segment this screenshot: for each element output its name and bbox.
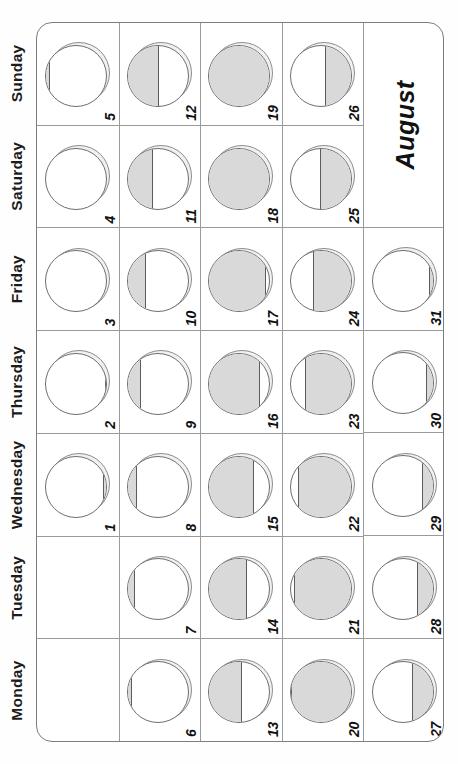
moon-phase-icon [208,41,274,107]
moon-phase-icon [372,246,438,312]
day-cell-15[interactable]: 15 [201,434,282,537]
moon-lit-area [294,558,352,620]
moon-phase-icon [127,144,193,210]
day-cell-11[interactable]: 11 [120,126,201,229]
moon-lit-area [291,661,352,723]
day-cell-29[interactable]: 29 [364,433,444,536]
day-cell-2[interactable]: 2 [37,331,119,434]
day-cell-8[interactable]: 8 [120,434,201,537]
day-number: 16 [266,414,280,429]
weekday-header-friday: Friday [0,228,36,331]
moon-lit-area [127,558,135,620]
day-cell-27[interactable]: 27 [364,639,444,741]
day-number: 12 [184,106,198,121]
day-cell-23[interactable]: 23 [283,331,364,434]
day-number: 24 [347,311,361,326]
day-cell-5[interactable]: 5 [37,23,119,126]
day-number: 2 [103,421,117,429]
day-cell-19[interactable]: 19 [201,23,282,126]
day-cell-26[interactable]: 26 [283,23,364,126]
moon-phase-icon [127,452,193,518]
day-cell-30[interactable]: 30 [364,331,444,434]
moon-phase-icon [127,41,193,107]
day-cell-12[interactable]: 12 [120,23,201,126]
day-number: 25 [347,208,361,223]
day-cell-16[interactable]: 16 [201,331,282,434]
day-cell-31[interactable]: 31 [364,228,444,331]
day-number: 19 [266,106,280,121]
day-cell-10[interactable]: 10 [120,228,201,331]
day-number: 21 [347,619,361,634]
moon-lit-area [208,250,265,312]
moon-phase-icon [127,349,193,415]
day-cell-14[interactable]: 14 [201,537,282,640]
moon-disc [127,45,189,107]
moon-disc [290,250,352,312]
moon-phase-icon [45,452,111,518]
moon-lit-area [45,45,50,107]
day-number: 31 [429,310,443,325]
month-title: August [390,80,419,169]
day-number: 13 [266,722,280,737]
moon-disc [127,250,189,312]
moon-phase-icon [290,144,356,210]
moon-phase-icon [290,452,356,518]
moon-lit-area [127,661,132,723]
day-number: 15 [266,516,280,531]
day-number: 27 [429,722,443,737]
day-number: 22 [347,516,361,531]
moon-lit-area [127,45,159,107]
day-cell-18[interactable]: 18 [201,126,282,229]
moon-phase-icon [208,144,274,210]
day-cell-17[interactable]: 17 [201,228,282,331]
moon-lit-area [417,558,434,620]
day-cell-28[interactable]: 28 [364,536,444,639]
moon-disc [290,45,352,107]
moon-phase-icon [45,349,111,415]
moon-lit-area [208,456,253,518]
moon-lit-area [208,661,242,723]
moon-phase-icon [45,41,111,107]
moon-lit-area [320,148,352,210]
month-title-cell[interactable]: August [364,23,444,228]
moon-lit-area [127,148,153,210]
moon-phase-icon [45,144,111,210]
day-cell-25[interactable]: 25 [283,126,364,229]
day-cell-7[interactable]: 7 [120,537,201,640]
day-cell-13[interactable]: 13 [201,639,282,741]
moon-disc [290,558,352,620]
moon-lit-area [429,250,434,312]
weekday-header-monday: Monday [0,639,36,742]
moon-disc [372,353,434,415]
weekday-header-thursday: Thursday [0,331,36,434]
moon-disc [290,353,352,415]
week-row: 13141516171819 [200,23,282,741]
moon-lit-area [208,148,270,210]
moon-phase-icon [127,657,193,723]
day-cell-3[interactable]: 3 [37,228,119,331]
moon-disc [208,353,270,415]
day-cell-1[interactable]: 1 [37,434,119,537]
day-cell-22[interactable]: 22 [283,434,364,537]
day-cell-6[interactable]: 6 [120,639,201,741]
moon-disc [45,456,107,518]
moon-disc [208,558,270,620]
weekday-header-saturday: Saturday [0,125,36,228]
day-cell-4[interactable]: 4 [37,126,119,229]
moon-phase-icon [290,41,356,107]
moon-disc [127,456,189,518]
moon-phase-icon [208,657,274,723]
day-number: 29 [429,516,443,531]
moon-lit-area [426,353,434,415]
calendar-page: MondayTuesdayWednesdayThursdayFridaySatu… [0,0,458,764]
day-number: 26 [347,106,361,121]
day-cell-24[interactable]: 24 [283,228,364,331]
moon-phase-icon [372,349,438,415]
day-cell-9[interactable]: 9 [120,331,201,434]
moon-disc [290,456,352,518]
day-cell-20[interactable]: 20 [283,639,364,741]
weekday-header-wednesday: Wednesday [0,433,36,536]
day-cell-21[interactable]: 21 [283,537,364,640]
day-number: 28 [429,619,443,634]
moon-lit-area [325,45,352,107]
